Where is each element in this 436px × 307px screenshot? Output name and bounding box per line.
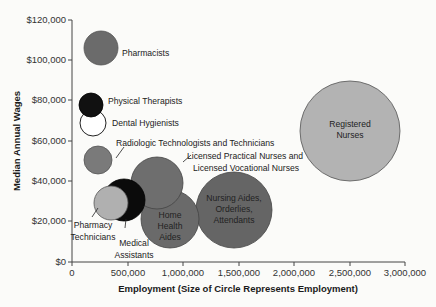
label-hha-line3: Aides [159, 232, 181, 242]
label-hha-line2: Health [158, 221, 183, 231]
label-nursing-line1: Nursing Aides, [206, 193, 261, 203]
bubble-physical-therapists [79, 93, 103, 117]
label-rn-line1: Registered [329, 119, 371, 129]
x-tick: 500,000 [111, 267, 145, 278]
y-tick: $0 [55, 256, 66, 267]
x-tick: 3,000,000 [384, 267, 426, 278]
y-tick: $100,000 [26, 54, 66, 65]
x-tick: 2,500,000 [329, 267, 371, 278]
label-pharmacists: Pharmacists [122, 48, 169, 58]
label-medical-assistants-line1: Medical [119, 238, 149, 248]
label-nursing-line2: Orderlies, [215, 204, 252, 214]
bubble-pharmacists [84, 31, 118, 65]
y-tick: $20,000 [32, 215, 66, 226]
bubble-chart: $120,000 $100,000 $80,000 $60,000 $40,00… [0, 0, 436, 307]
y-tick: $120,000 [26, 14, 66, 25]
y-tick: $40,000 [32, 175, 66, 186]
y-axis: $120,000 $100,000 $80,000 $60,000 $40,00… [11, 14, 72, 267]
label-pharm-tech-line1: Pharmacy [74, 220, 113, 230]
label-lpn-line1: Licensed Practical Nurses and [187, 151, 303, 161]
label-pharm-tech-line2: Technicians [71, 232, 116, 242]
bubble-radiologic [84, 146, 112, 174]
x-tick: 1,500,000 [218, 267, 260, 278]
x-tick: 2,000,000 [273, 267, 315, 278]
x-axis-label: Employment (Size of Circle Represents Em… [118, 283, 358, 294]
x-tick: 0 [69, 267, 74, 278]
x-axis: 0 500,000 1,000,000 1,500,000 2,000,000 … [69, 262, 426, 294]
bubble-pharmacy-technicians [94, 186, 128, 220]
label-medical-assistants-line2: Assistants [114, 250, 153, 260]
y-tick: $80,000 [32, 94, 66, 105]
label-physical-therapists: Physical Therapists [108, 96, 182, 106]
x-tick: 1,000,000 [162, 267, 204, 278]
y-tick: $60,000 [32, 135, 66, 146]
label-dental-hygienists: Dental Hygienists [112, 118, 179, 128]
label-hha-line1: Home [159, 210, 182, 220]
label-lpn-line2: Licensed Vocational Nurses [193, 163, 299, 173]
label-rn-line2: Nurses [336, 130, 363, 140]
label-radiologic: Radiologic Technologists and Technicians [116, 138, 274, 148]
label-nursing-line3: Attendants [213, 215, 254, 225]
y-axis-label: Median Annual Wages [11, 91, 22, 191]
